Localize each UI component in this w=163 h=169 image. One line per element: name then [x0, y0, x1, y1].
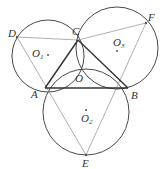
label-c: C: [72, 25, 80, 37]
point-d: [16, 36, 18, 38]
label-b: B: [131, 89, 138, 101]
label-e: E: [81, 157, 89, 169]
point-o3: [116, 50, 118, 52]
segment-ca: [45, 40, 78, 88]
labels: D C F O A B E O1 O3 O2: [7, 11, 155, 169]
label-a: A: [30, 88, 38, 100]
circles: [12, 7, 158, 155]
label-o2: O2: [81, 112, 93, 126]
point-e: [85, 154, 87, 156]
label-f: F: [147, 11, 155, 23]
label-d: D: [7, 27, 16, 39]
geometry-diagram: D C F O A B E O1 O3 O2: [0, 0, 163, 169]
point-f: [145, 22, 147, 24]
label-o: O: [75, 72, 83, 84]
label-o3: O3: [113, 36, 125, 50]
label-o1: O1: [32, 47, 43, 61]
point-o2: [85, 109, 87, 111]
segment-cf: [78, 23, 146, 40]
segment-dc: [17, 37, 78, 40]
point-o1: [47, 54, 49, 56]
